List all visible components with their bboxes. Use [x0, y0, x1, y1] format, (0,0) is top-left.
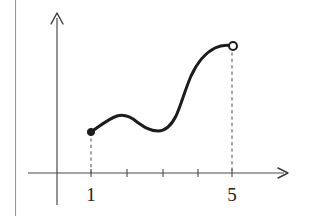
- graph-figure: 1 5: [0, 0, 318, 216]
- curve-end-open-circle: [229, 42, 237, 50]
- curve-start-filled-dot: [87, 128, 94, 135]
- function-curve: [91, 45, 233, 132]
- x-tick-label-5: 5: [227, 184, 237, 205]
- plot-canvas: 1 5: [0, 0, 318, 216]
- x-tick-label-1: 1: [86, 184, 96, 205]
